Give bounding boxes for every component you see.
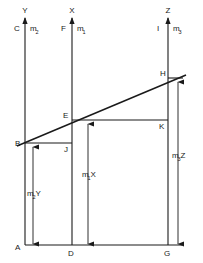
point-label-H: H [160,69,166,78]
axis-mass-sub-3: 3 [179,29,182,35]
dimension-m2Y: m 2 Y [27,147,42,244]
dimension-suffix-Y: Y [36,189,42,198]
axis-arrowhead-right [165,17,170,24]
axis-label-Z: Z [166,6,171,15]
point-label-K: K [159,122,165,131]
point-label-E: E [63,111,68,120]
dimension-suffix-X: X [91,170,97,179]
point-label-A: A [15,243,21,252]
point-label-B: B [15,139,20,148]
axis-arrowhead-middle [69,17,74,24]
axis-label-Y: Y [22,6,28,15]
axis-foot-label-C: C [14,24,20,33]
point-label-D: D [68,249,74,258]
axis-foot-label-F: F [61,24,66,33]
geometry-diagram: Y C m 2 X F m 1 Z I m 3 [0,0,203,263]
dimension-m1X: m 1 X [82,124,97,244]
axis-group-left: Y C m 2 [14,6,39,245]
axis-foot-label-I: I [157,24,159,33]
dimension-m3Z: m 3 Z [172,82,186,244]
axis-mass-sub-1: 1 [83,29,86,35]
axis-mass-sub-2: 2 [36,29,39,35]
point-label-J: J [64,145,68,154]
dimension-suffix-Z: Z [181,151,186,160]
axis-arrowhead-left [22,17,27,24]
diagram-canvas: Y C m 2 X F m 1 Z I m 3 [0,0,203,263]
axis-label-X: X [69,6,75,15]
point-label-G: G [164,249,170,258]
slant-line-B-H [17,75,186,146]
